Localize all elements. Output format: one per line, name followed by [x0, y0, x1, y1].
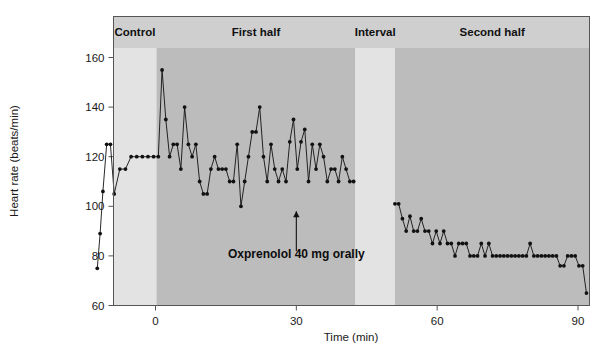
data-point	[220, 167, 224, 171]
data-point	[171, 142, 175, 146]
data-point	[555, 254, 559, 258]
data-point	[487, 242, 491, 246]
data-point	[250, 130, 254, 134]
data-point	[262, 155, 266, 159]
x-axis-title: Time (min)	[324, 331, 379, 343]
condition-band-first-half	[156, 48, 355, 306]
data-point	[105, 142, 109, 146]
y-axis-title: Heart rate (beats/min)	[8, 105, 20, 217]
data-point	[205, 192, 209, 196]
data-point	[243, 180, 247, 184]
data-point	[292, 118, 296, 122]
data-point	[573, 254, 577, 258]
band-label-second-half: Second half	[460, 26, 525, 38]
data-point	[280, 167, 284, 171]
data-point	[543, 254, 547, 258]
condition-band-control	[114, 48, 157, 306]
data-point	[348, 180, 352, 184]
data-point	[547, 254, 551, 258]
data-point	[310, 142, 314, 146]
data-point	[449, 242, 453, 246]
data-point	[258, 105, 262, 109]
data-point	[273, 167, 277, 171]
x-tick-label: 0	[152, 315, 158, 327]
x-tick-label: 30	[290, 315, 303, 327]
data-point	[476, 254, 480, 258]
condition-band-interval	[355, 48, 394, 306]
data-point	[135, 155, 139, 159]
data-point	[318, 142, 322, 146]
data-point	[419, 217, 423, 221]
data-point	[539, 254, 543, 258]
data-point	[288, 140, 292, 144]
data-point	[446, 242, 450, 246]
data-point	[502, 254, 506, 258]
data-point	[228, 180, 232, 184]
data-point	[124, 167, 128, 171]
heart-rate-chart: 6080100120140160 Heart rate (beats/min) …	[0, 0, 605, 350]
condition-bands	[114, 48, 590, 306]
data-point	[295, 167, 299, 171]
data-point	[393, 202, 397, 206]
data-point	[152, 155, 156, 159]
data-point	[194, 142, 198, 146]
data-point	[479, 242, 483, 246]
data-point	[95, 266, 99, 270]
data-point	[322, 155, 326, 159]
data-point	[352, 180, 356, 184]
data-point	[118, 167, 122, 171]
data-point	[442, 229, 446, 233]
data-point	[112, 192, 116, 196]
data-point	[401, 217, 405, 221]
data-point	[517, 254, 521, 258]
data-point	[217, 167, 221, 171]
data-point	[404, 229, 408, 233]
data-point	[532, 254, 536, 258]
y-tick-label: 160	[85, 52, 104, 64]
data-point	[528, 242, 532, 246]
data-point	[344, 167, 348, 171]
data-point	[183, 105, 187, 109]
data-point	[438, 242, 442, 246]
data-point	[464, 242, 468, 246]
data-point	[277, 180, 281, 184]
data-point	[431, 242, 435, 246]
data-point	[509, 254, 513, 258]
band-label-control: Control	[115, 26, 156, 38]
data-point	[408, 214, 412, 218]
data-point	[491, 254, 495, 258]
data-point	[235, 142, 239, 146]
data-point	[333, 167, 337, 171]
data-point	[314, 167, 318, 171]
data-point	[254, 130, 258, 134]
data-point	[325, 180, 329, 184]
data-point	[524, 254, 528, 258]
data-point	[179, 167, 183, 171]
data-point	[397, 202, 401, 206]
data-point	[198, 180, 202, 184]
data-point	[299, 140, 303, 144]
data-point	[160, 68, 164, 72]
data-point	[551, 254, 555, 258]
data-point	[340, 155, 344, 159]
data-point	[303, 128, 307, 132]
data-point	[329, 167, 333, 171]
data-point	[98, 232, 102, 236]
annotation-label: Oxprenolol 40 mg orally	[228, 247, 365, 261]
data-point	[585, 291, 589, 295]
data-point	[427, 229, 431, 233]
data-point	[434, 229, 438, 233]
data-point	[146, 155, 150, 159]
data-point	[265, 180, 269, 184]
data-point	[164, 118, 168, 122]
data-point	[558, 264, 562, 268]
data-point	[269, 142, 273, 146]
data-point	[247, 155, 251, 159]
data-point	[562, 264, 566, 268]
data-point	[457, 242, 461, 246]
y-tick-label: 120	[85, 151, 104, 163]
data-point	[483, 254, 487, 258]
data-point	[494, 254, 498, 258]
x-tick-label: 90	[572, 315, 585, 327]
data-point	[570, 254, 574, 258]
